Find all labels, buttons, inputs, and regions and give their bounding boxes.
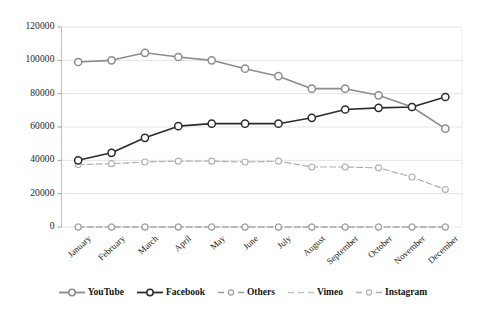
gridlines (62, 27, 463, 227)
data-point-instagram (209, 158, 215, 164)
data-point-others (242, 224, 248, 230)
data-point-instagram (275, 158, 281, 164)
data-point-facebook (375, 104, 382, 111)
data-point-instagram (342, 164, 348, 170)
legend-item-youtube[interactable]: YouTube (59, 288, 124, 298)
data-point-youtube (75, 58, 82, 65)
data-point-youtube (342, 85, 349, 92)
data-point-youtube (241, 65, 248, 72)
y-tick-label: 80000 (30, 89, 54, 99)
data-point-youtube (442, 125, 449, 132)
legend-marker (366, 290, 371, 295)
y-tick-label: 0 (50, 222, 55, 232)
axis-ticks (58, 27, 446, 231)
legend-item-facebook[interactable]: Facebook (137, 288, 205, 298)
legend-label: YouTube (88, 288, 124, 298)
data-point-instagram (409, 174, 415, 180)
data-point-others (142, 224, 148, 230)
legend-swatch-youtube (59, 288, 85, 297)
data-point-others (209, 224, 215, 230)
chart-legend: YouTubeFacebookOthersVimeoInstagram (0, 288, 486, 298)
data-point-instagram (442, 187, 448, 193)
data-point-others (342, 224, 348, 230)
series-line-facebook (78, 97, 445, 160)
series-line-instagram (78, 161, 445, 189)
data-point-facebook (208, 120, 215, 127)
data-point-facebook (308, 114, 315, 121)
y-tick-label: 60000 (30, 122, 54, 132)
y-tick-label: 100000 (25, 55, 54, 65)
legend-label: Facebook (166, 288, 205, 298)
data-point-youtube (141, 49, 148, 56)
legend-label: Instagram (385, 288, 427, 298)
data-point-others (275, 224, 281, 230)
data-point-instagram (242, 159, 248, 165)
legend-marker (147, 290, 153, 296)
data-point-facebook (241, 120, 248, 127)
data-point-youtube (208, 57, 215, 64)
data-point-others (409, 224, 415, 230)
data-point-facebook (108, 149, 115, 156)
data-point-facebook (442, 93, 449, 100)
data-point-instagram (309, 164, 315, 170)
data-point-youtube (308, 85, 315, 92)
data-point-others (442, 224, 448, 230)
legend-marker (228, 290, 233, 295)
data-point-facebook (141, 134, 148, 141)
y-tick-label: 120000 (25, 22, 54, 32)
legend-marker (69, 290, 75, 296)
legend-item-instagram[interactable]: Instagram (356, 288, 427, 298)
y-tick-label: 40000 (30, 155, 54, 165)
data-point-instagram (175, 158, 181, 164)
line-chart: 020000400006000080000100000120000 Januar… (0, 0, 486, 321)
legend-label: Others (247, 288, 275, 298)
data-point-facebook (408, 103, 415, 110)
series-line-youtube (78, 53, 445, 129)
data-point-youtube (275, 73, 282, 80)
data-point-instagram (376, 165, 382, 171)
data-point-others (309, 224, 315, 230)
data-point-youtube (175, 53, 182, 60)
data-point-youtube (375, 92, 382, 99)
data-point-others (75, 224, 81, 230)
legend-swatch-facebook (137, 288, 163, 297)
legend-swatch-instagram (356, 288, 382, 297)
data-point-others (175, 224, 181, 230)
data-point-facebook (75, 157, 82, 164)
data-point-others (109, 224, 115, 230)
data-point-facebook (275, 120, 282, 127)
data-point-instagram (142, 159, 148, 165)
data-point-others (376, 224, 382, 230)
data-point-instagram (109, 161, 115, 167)
legend-label: Vimeo (317, 288, 343, 298)
data-point-facebook (342, 106, 349, 113)
legend-item-vimeo[interactable]: Vimeo (288, 288, 343, 298)
data-series (75, 49, 449, 230)
data-point-facebook (175, 123, 182, 130)
data-point-youtube (108, 57, 115, 64)
legend-swatch-vimeo (288, 288, 314, 297)
legend-item-others[interactable]: Others (218, 288, 275, 298)
y-tick-label: 20000 (30, 189, 54, 199)
legend-swatch-others (218, 288, 244, 297)
